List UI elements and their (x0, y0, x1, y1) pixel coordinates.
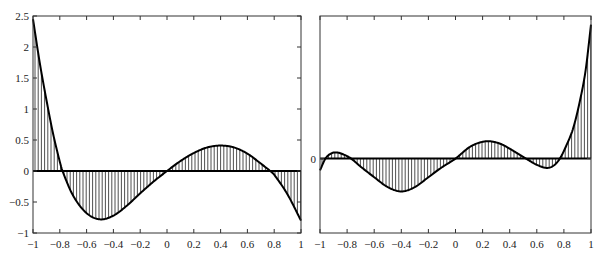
function-curve (320, 25, 591, 192)
x-tick-label: 0.8 (267, 238, 281, 250)
x-tick-label: 0 (453, 238, 459, 250)
left-plot: −1−0.8−0.6−0.4−0.200.20.40.60.81−1−0.500… (9, 10, 304, 250)
right-plot: −1−0.8−0.6−0.4−0.200.20.40.60.810 (311, 16, 594, 250)
y-tick-label: 0 (311, 153, 317, 165)
x-tick-label: −1 (27, 238, 39, 250)
y-tick-label: 2.5 (15, 10, 29, 22)
x-tick-label: 0 (164, 238, 170, 250)
y-tick-label: −0.5 (9, 196, 29, 208)
plot-frame (320, 16, 591, 233)
x-tick-label: 0.2 (476, 238, 490, 250)
x-tick-label: −0.8 (337, 238, 357, 250)
x-tick-label: 0.4 (214, 238, 228, 250)
x-tick-label: −0.8 (50, 238, 70, 250)
hatch-fill (35, 32, 301, 220)
x-tick-label: −0.4 (103, 238, 123, 250)
y-tick-label: −1 (17, 227, 29, 239)
x-tick-label: 0.2 (187, 238, 201, 250)
x-tick-label: 0.4 (503, 238, 517, 250)
y-tick-label: 1 (24, 103, 30, 115)
y-tick-label: 1.5 (15, 72, 29, 84)
y-tick-label: 2 (24, 41, 30, 53)
x-tick-label: 1 (298, 238, 304, 250)
x-tick-label: −0.2 (130, 238, 150, 250)
x-tick-label: 1 (588, 238, 594, 250)
chart-canvas: −1−0.8−0.6−0.4−0.200.20.40.60.81−1−0.500… (0, 0, 599, 256)
x-tick-label: −0.6 (364, 238, 384, 250)
plot-frame (33, 16, 301, 233)
x-tick-label: 0.6 (530, 238, 544, 250)
x-tick-label: −1 (314, 238, 326, 250)
x-tick-label: −0.2 (418, 238, 438, 250)
x-tick-label: 0.6 (241, 238, 255, 250)
x-tick-label: −0.4 (391, 238, 411, 250)
x-tick-label: −0.6 (77, 238, 97, 250)
x-tick-label: 0.8 (557, 238, 571, 250)
y-tick-label: 0 (24, 165, 30, 177)
y-tick-label: 0.5 (15, 134, 29, 146)
